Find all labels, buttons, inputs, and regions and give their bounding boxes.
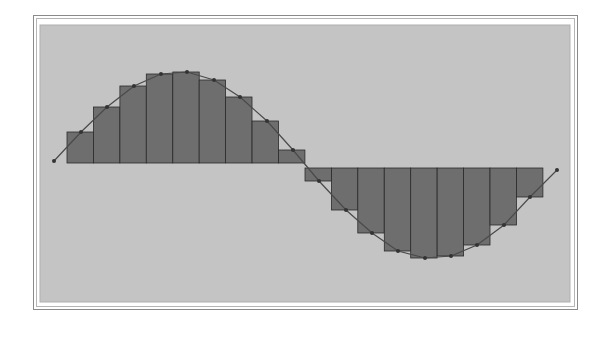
bar: [331, 168, 357, 210]
curve-point: [423, 256, 427, 260]
curve-point: [212, 78, 216, 82]
curve-point: [396, 249, 400, 253]
curve-point: [555, 168, 559, 172]
bar: [120, 86, 146, 163]
curve-point: [105, 105, 109, 109]
bar: [226, 97, 252, 163]
curve-point: [449, 254, 453, 258]
curve-point: [502, 223, 506, 227]
bar: [384, 168, 410, 251]
bar: [464, 168, 490, 245]
curve-point: [475, 243, 479, 247]
bar: [199, 80, 225, 163]
curve-point: [52, 159, 56, 163]
curve-point: [238, 95, 242, 99]
curve-point: [79, 130, 83, 134]
bar: [173, 72, 199, 163]
curve-point: [132, 84, 136, 88]
curve-point: [159, 72, 163, 76]
curve-point: [291, 148, 295, 152]
bar: [93, 107, 119, 163]
curve-point: [265, 119, 269, 123]
curve-point: [185, 70, 189, 74]
curve-point: [317, 179, 321, 183]
bar: [411, 168, 437, 258]
riemann-sum-chart: [0, 0, 608, 338]
curve-point: [528, 195, 532, 199]
bar: [517, 168, 543, 197]
bar: [67, 132, 93, 163]
bar: [279, 150, 305, 163]
bar: [146, 74, 172, 163]
bar: [252, 121, 278, 163]
curve-point: [344, 208, 348, 212]
curve-point: [370, 231, 374, 235]
bar: [437, 168, 463, 256]
